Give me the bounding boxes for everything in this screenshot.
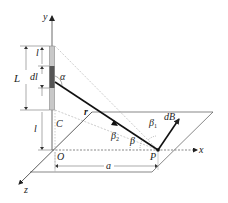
field-vector-dB xyxy=(158,119,179,150)
beta2-label: β2 xyxy=(111,131,119,142)
total-length-label: L xyxy=(14,73,20,84)
beta-label: β xyxy=(130,136,135,146)
dimension-upper-l xyxy=(38,47,49,96)
point-p-label: P xyxy=(150,152,156,162)
origin-label: O xyxy=(57,152,64,162)
beta1-label: β1 xyxy=(149,118,157,129)
diagram-canvas xyxy=(0,0,228,203)
vector-r-label: r xyxy=(84,107,88,117)
alpha-label: α xyxy=(60,72,65,82)
dimension-lower-l xyxy=(38,112,52,150)
upper-length-label: l xyxy=(36,48,39,58)
x-axis-label: x xyxy=(199,145,203,155)
current-element-dl xyxy=(50,66,55,88)
beta2-sub: 2 xyxy=(116,136,119,142)
dashed-top-to-p xyxy=(55,46,158,150)
point-p-dot xyxy=(156,148,160,152)
dB-B: B xyxy=(169,111,175,122)
dB-label: dB xyxy=(164,112,175,122)
beta1-sub: 1 xyxy=(154,123,157,129)
lower-length-label: l xyxy=(34,124,37,134)
dl-l: l xyxy=(35,71,38,82)
element-dl-label: dl xyxy=(30,72,38,82)
distance-a-label: a xyxy=(106,161,111,171)
biot-savart-diagram: y l dl L α l C r β2 β β1 dB O a P x z xyxy=(0,0,228,203)
y-axis-label: y xyxy=(43,12,47,22)
point-c-label: C xyxy=(56,119,63,129)
z-axis-label: z xyxy=(24,185,28,195)
